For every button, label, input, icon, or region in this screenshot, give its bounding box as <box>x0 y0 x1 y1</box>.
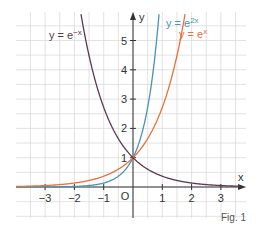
curve-label: y = ex <box>179 27 207 40</box>
y-tick-label: 3 <box>121 93 127 105</box>
figure-caption: Fig. 1 <box>221 212 246 223</box>
origin-label: O <box>121 190 130 202</box>
curve-expnegx <box>81 14 240 186</box>
curve-label: y = e−x <box>49 28 82 41</box>
y-tick-label: 5 <box>121 35 127 47</box>
x-tick-label: 2 <box>189 192 195 204</box>
x-axis-arrow-icon <box>238 184 246 190</box>
x-tick-label: −2 <box>68 192 81 204</box>
labels: −3−2−112312345Oxyy = e2xy = exy = e−x <box>39 11 244 204</box>
x-tick-label: 3 <box>218 192 224 204</box>
curve-expx <box>16 14 185 186</box>
y-axis-arrow-icon <box>130 12 136 20</box>
x-tick-label: 1 <box>159 192 165 204</box>
x-tick-label: −1 <box>97 192 110 204</box>
y-tick-label: 4 <box>121 64 127 76</box>
y-tick-label: 2 <box>121 122 127 134</box>
x-axis-label: x <box>238 171 244 183</box>
y-axis-label: y <box>139 11 145 23</box>
x-tick-label: −3 <box>39 192 52 204</box>
y-tick-label: 1 <box>121 152 127 164</box>
exponential-chart: −3−2−112312345Oxyy = e2xy = exy = e−x <box>0 0 260 241</box>
